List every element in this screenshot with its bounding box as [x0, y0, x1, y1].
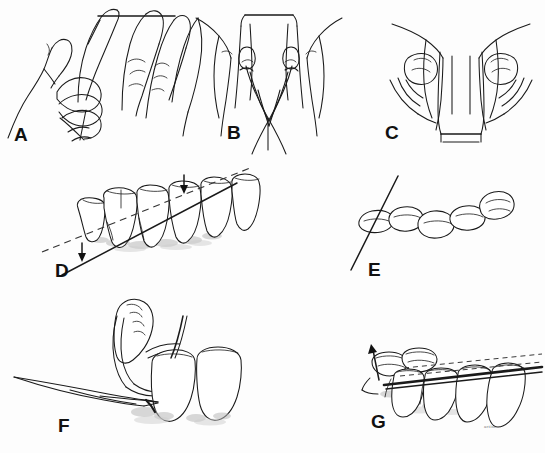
- panel-letter-d: D: [55, 260, 69, 281]
- panel-a-letter: A: [14, 124, 28, 145]
- figure-root: A: [0, 0, 545, 453]
- artist-signature: artist: [484, 424, 496, 429]
- panel-g-letter: G: [371, 411, 386, 432]
- panel-c-letter: C: [385, 122, 399, 143]
- panel-letter-c: C: [385, 122, 399, 143]
- figure-canvas: A: [0, 0, 545, 453]
- panel-letter-b: B: [227, 122, 241, 143]
- panel-letter-f: F: [58, 415, 70, 436]
- panel-e-letter: E: [368, 259, 381, 280]
- panel-b-letter: B: [227, 122, 241, 143]
- panel-letter-e: E: [368, 259, 381, 280]
- panel-letter-a: A: [14, 124, 28, 145]
- panel-d-letter: D: [55, 260, 69, 281]
- panel-f-letter: F: [58, 415, 70, 436]
- panel-letter-g: G: [371, 411, 386, 432]
